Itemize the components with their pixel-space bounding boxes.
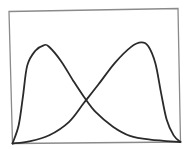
plot-frame bbox=[9, 9, 181, 144]
skewed-distributions-plot bbox=[0, 0, 187, 149]
negatively-skewed-distribution-curve bbox=[13, 42, 181, 143]
series-layer bbox=[13, 42, 181, 143]
positively-skewed-distribution-curve bbox=[13, 45, 181, 144]
chart bbox=[0, 0, 187, 149]
